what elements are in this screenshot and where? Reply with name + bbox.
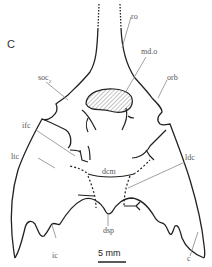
label-dsp: dsp (103, 227, 114, 235)
sensory-canals (70, 108, 166, 177)
label-ltc: ltc (11, 153, 19, 161)
label-soc-subscript: 2 (49, 79, 52, 84)
label-dcm: dcm (102, 168, 116, 176)
label-ldc: ldc (185, 154, 195, 162)
label-ro: ro (131, 13, 138, 21)
panel-label: C (7, 38, 15, 50)
leader-lines (36, 17, 198, 256)
label-c: c (187, 255, 191, 263)
label-ic: ic (52, 252, 58, 260)
label-soc-text: soc (38, 73, 49, 82)
label-orb: orb (167, 74, 178, 82)
label-soc: soc2 (38, 74, 51, 84)
lower-canal-branches (78, 195, 140, 210)
scale-bar-label: 5 mm (98, 248, 121, 258)
label-md-o: md.o (141, 48, 157, 56)
rostrum-outline (68, 4, 152, 98)
label-ifc: ifc (22, 122, 30, 130)
